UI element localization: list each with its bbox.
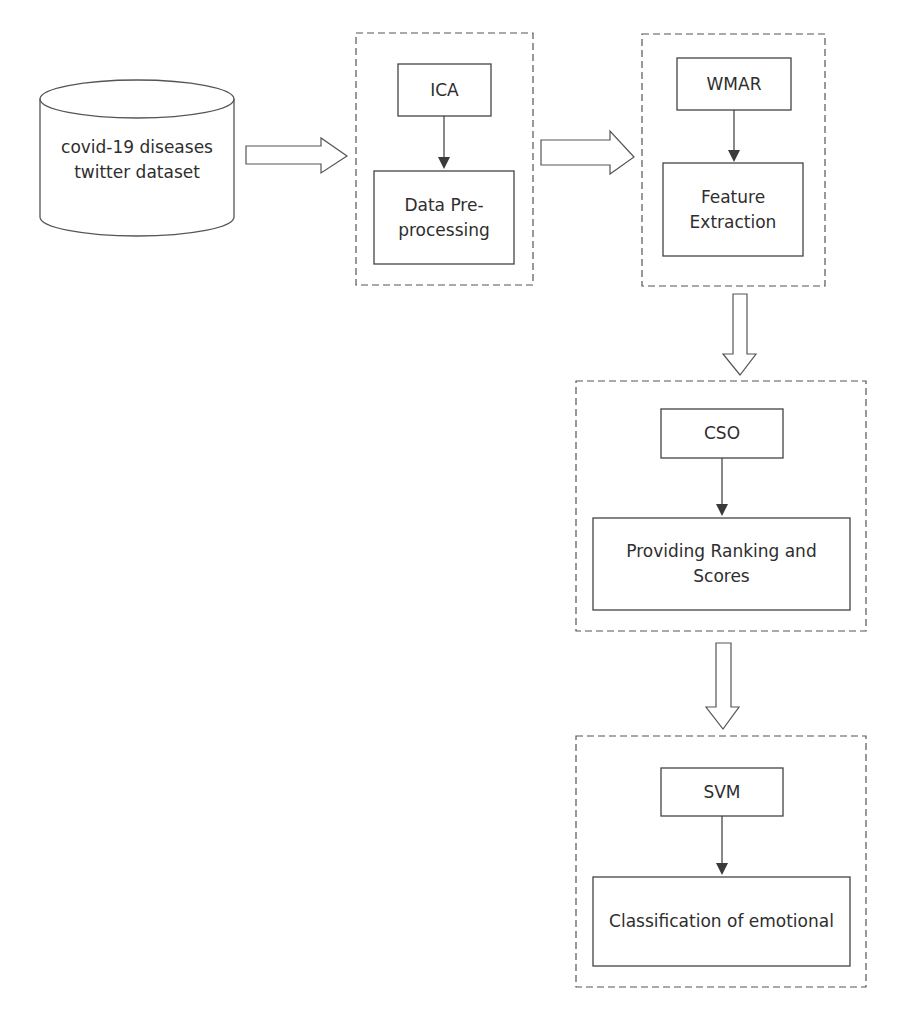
method-label-ica: ICA	[398, 64, 491, 116]
block-arrow-right-icon	[246, 138, 347, 173]
step-label-line1: Data Pre-	[404, 193, 483, 218]
method-label-cso: CSO	[661, 409, 783, 458]
block-arrow-down-icon	[706, 643, 739, 729]
step-label-line2: Scores	[693, 564, 749, 589]
block-arrow-right-icon	[541, 131, 634, 174]
method-label-wmar: WMAR	[677, 58, 791, 110]
step-label-line1: Providing Ranking and	[626, 539, 816, 564]
step-label-line2: Extraction	[690, 210, 777, 235]
step-label-line2: processing	[398, 218, 490, 243]
block-arrow-down-icon	[723, 294, 756, 375]
dataset-label-line1: covid-19 diseases	[61, 135, 213, 160]
method-label-svm: SVM	[661, 768, 783, 816]
dataset-label-line2: twitter dataset	[74, 160, 200, 185]
step-label-feature-extraction: Feature Extraction	[663, 163, 803, 256]
step-label-classification: Classification of emotional	[593, 877, 850, 966]
step-label-preprocessing: Data Pre- processing	[374, 171, 514, 264]
dataset-label: covid-19 diseases twitter dataset	[40, 130, 234, 190]
step-label-line1: Feature	[701, 185, 765, 210]
step-label-ranking-scores: Providing Ranking and Scores	[593, 518, 850, 610]
